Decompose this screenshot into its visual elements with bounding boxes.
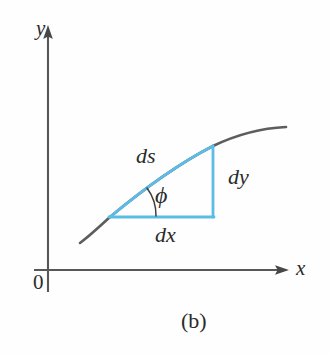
origin-label: 0: [33, 272, 44, 293]
figure-drawing: [0, 0, 329, 354]
delta-x-label: dx: [155, 224, 176, 246]
angle-phi-label: ϕ: [155, 183, 167, 207]
arc-length-label: ds: [136, 145, 156, 167]
delta-y-label: dy: [228, 166, 249, 188]
x-axis: [34, 265, 289, 275]
y-axis: [43, 25, 53, 292]
figure-container: y x 0 ds dy dx ϕ (b): [0, 0, 329, 354]
y-axis-label: y: [36, 18, 45, 39]
x-axis-label: x: [296, 258, 305, 279]
figure-caption: (b): [181, 310, 207, 332]
function-curve: [80, 127, 286, 243]
